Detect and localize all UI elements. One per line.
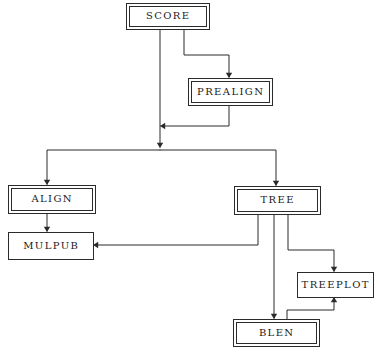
connector-blen-to-treeplot [287,297,337,319]
node-treeplot-label: TREEPLOT [302,279,370,290]
node-mulpub-label: MULPUB [23,240,79,251]
arrowhead-split-bar-to-align [44,180,50,185]
connector-prealign-to-main [160,105,229,129]
arrowhead-split-bar-to-tree [273,181,279,186]
node-score[interactable]: SCORE [127,4,210,30]
node-score-label: SCORE [146,10,191,21]
node-mulpub[interactable]: MULPUB [9,233,94,260]
node-prealign-label: PREALIGN [197,86,264,97]
arrowhead-prealign-to-main [160,123,165,129]
node-blen-label: BLEN [259,327,295,338]
arrowhead-tree-to-blen [271,314,277,319]
connector-split-bar-to-align [44,150,160,185]
flowchart-canvas: SCOREPREALIGNALIGNMULPUBTREETREEPLOTBLEN [0,0,381,352]
connector-score-to-split [157,29,163,148]
connector-tree-to-treeplot [288,214,337,272]
connector-align-to-mulpub [44,213,50,232]
arrowhead-tree-to-treeplot [331,267,337,272]
arrowhead-score-to-split [157,143,163,148]
arrowhead-score-to-prealign [226,73,232,78]
node-align-label: ALIGN [30,193,73,204]
connector-tree-to-blen [271,214,277,319]
node-tree[interactable]: TREE [235,187,321,215]
arrowhead-align-to-mulpub [44,227,50,232]
flowchart-diagram: SCOREPREALIGNALIGNMULPUBTREETREEPLOTBLEN [0,0,381,352]
node-tree-label: TREE [260,194,294,205]
node-treeplot[interactable]: TREEPLOT [298,273,374,298]
node-align[interactable]: ALIGN [9,186,96,214]
connector-tree-to-mulpub [93,214,258,248]
connector-score-to-prealign [184,29,232,78]
connector-split-bar-to-tree [160,150,279,186]
node-blen[interactable]: BLEN [234,320,320,347]
connector-layer [44,29,337,319]
node-prealign[interactable]: PREALIGN [189,79,273,106]
